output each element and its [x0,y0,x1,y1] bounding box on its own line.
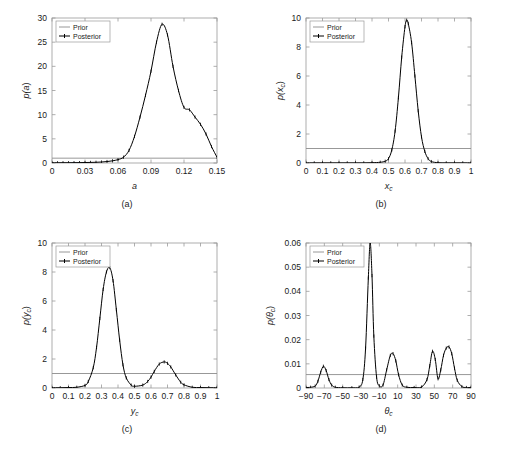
svg-text:0.2: 0.2 [333,166,345,176]
svg-text:30: 30 [411,391,421,401]
svg-text:6: 6 [296,71,301,81]
svg-text:70: 70 [448,391,458,401]
svg-text:0: 0 [304,166,309,176]
svg-text:0.1: 0.1 [63,391,75,401]
svg-text:0.06: 0.06 [110,166,127,176]
svg-text:0.04: 0.04 [284,286,301,296]
legend-label-prior: Prior [73,24,88,31]
x-tick-labels: 00.10.20.30.40.50.60.70.80.91 [50,391,220,401]
svg-text:−10: −10 [372,391,387,401]
svg-text:0.8: 0.8 [432,166,444,176]
svg-text:0.03: 0.03 [77,166,94,176]
legend: PriorPosterior [56,21,110,42]
svg-text:25: 25 [38,37,48,47]
y-tick-labels: 00.010.020.030.040.050.06 [284,238,301,393]
figure-container: 00.030.060.090.120.15051015202530p(a)aPr… [0,0,508,450]
y-tick-labels: 0246810 [292,13,302,168]
svg-text:10: 10 [393,391,403,401]
svg-text:5: 5 [42,134,47,144]
x-tick-labels: 00.10.20.30.40.50.60.70.80.91 [304,166,474,176]
y-axis-label: p(a) [21,82,31,99]
svg-text:90: 90 [466,391,476,401]
svg-text:0.3: 0.3 [96,391,108,401]
plot-panel-b: 00.10.20.30.40.50.60.70.80.910246810p(xc… [254,0,508,225]
svg-text:0.9: 0.9 [449,166,461,176]
svg-text:0: 0 [50,391,55,401]
svg-text:0.8: 0.8 [178,391,190,401]
x-axis-label: xc [384,181,394,192]
panel-caption: (d) [254,424,508,434]
y-tick-labels: 051015202530 [38,13,48,168]
legend-label-prior: Prior [327,24,342,31]
svg-text:−70: −70 [317,391,332,401]
svg-text:0.4: 0.4 [112,391,124,401]
legend: PriorPosterior [310,21,364,42]
svg-text:0.5: 0.5 [383,166,395,176]
svg-text:10: 10 [292,13,302,23]
svg-text:p(θc): p(θc) [265,306,276,326]
svg-text:15: 15 [38,86,48,96]
svg-text:−30: −30 [354,391,369,401]
x-tick-labels: −90−70−50−30−101030507090 [299,391,476,401]
svg-text:0: 0 [42,383,47,393]
svg-text:2: 2 [42,354,47,364]
legend: PriorPosterior [56,246,110,267]
plot-panel-d: −90−70−50−30−10103050709000.010.020.030.… [254,225,508,450]
svg-text:0.6: 0.6 [399,166,411,176]
x-tick-labels: 00.030.060.090.120.15 [50,166,226,176]
svg-text:4: 4 [42,325,47,335]
svg-text:1: 1 [215,391,220,401]
x-axis-label: θc [384,406,393,417]
svg-text:p(yc): p(yc) [21,306,32,326]
svg-text:0: 0 [296,158,301,168]
svg-text:−50: −50 [335,391,350,401]
plot-panel-c: 00.10.20.30.40.50.60.70.80.910246810p(yc… [0,225,254,450]
svg-text:0.4: 0.4 [366,166,378,176]
svg-text:0.9: 0.9 [195,391,207,401]
svg-text:0.2: 0.2 [79,391,91,401]
x-axis-label: yc [130,406,140,417]
x-axis-label: a [132,181,137,191]
y-tick-labels: 0246810 [38,238,48,393]
panel-caption: (b) [254,199,508,209]
panel-caption: (a) [0,199,254,209]
svg-text:0.7: 0.7 [162,391,174,401]
svg-text:0.09: 0.09 [143,166,160,176]
svg-text:10: 10 [38,238,48,248]
svg-text:2: 2 [296,129,301,139]
y-axis-label: p(yc) [21,306,32,326]
panel-caption: (c) [0,424,254,434]
legend: PriorPosterior [310,246,364,267]
svg-text:0.3: 0.3 [350,166,362,176]
svg-text:0.02: 0.02 [284,335,301,345]
svg-text:p(xc): p(xc) [275,81,286,101]
legend-label-posterior: Posterior [73,33,102,40]
svg-text:20: 20 [38,61,48,71]
svg-text:30: 30 [38,13,48,23]
svg-text:8: 8 [296,42,301,52]
legend-label-prior: Prior [73,249,88,256]
svg-text:8: 8 [42,267,47,277]
svg-text:p(a): p(a) [21,82,31,99]
svg-text:1: 1 [469,166,474,176]
legend-label-prior: Prior [327,249,342,256]
svg-text:50: 50 [430,391,440,401]
svg-text:0: 0 [42,158,47,168]
svg-text:0.05: 0.05 [284,262,301,272]
svg-text:0: 0 [50,166,55,176]
svg-text:0.12: 0.12 [176,166,193,176]
svg-text:0.7: 0.7 [416,166,428,176]
svg-text:0.03: 0.03 [284,311,301,321]
svg-text:0.6: 0.6 [145,391,157,401]
plot-panel-a: 00.030.060.090.120.15051015202530p(a)aPr… [0,0,254,225]
legend-label-posterior: Posterior [327,258,356,265]
y-axis-label: p(xc) [275,81,286,101]
svg-text:0.5: 0.5 [129,391,141,401]
svg-text:4: 4 [296,100,301,110]
svg-text:0.15: 0.15 [209,166,226,176]
svg-text:0.06: 0.06 [284,238,301,248]
svg-text:0.1: 0.1 [317,166,329,176]
y-axis-label: p(θc) [265,306,276,326]
legend-label-posterior: Posterior [73,258,102,265]
svg-text:0.01: 0.01 [284,359,301,369]
